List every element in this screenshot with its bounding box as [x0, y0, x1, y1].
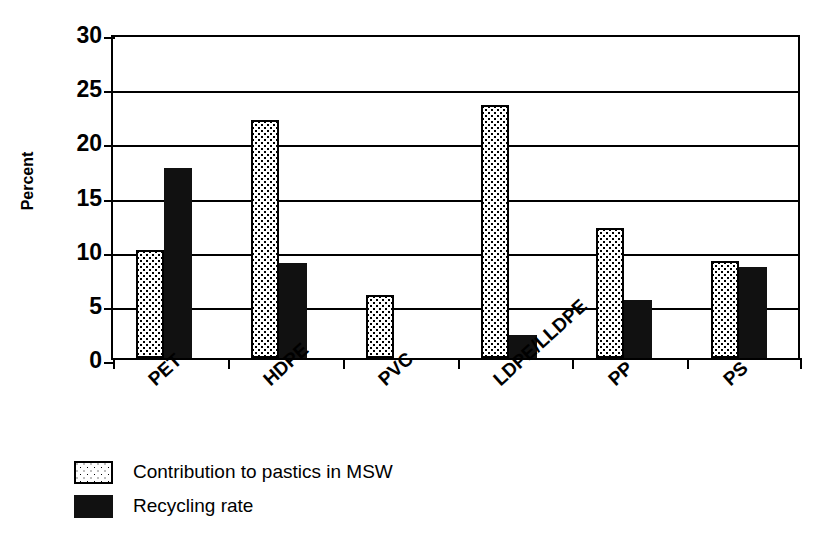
gridline	[113, 254, 798, 256]
legend-label-1: Contribution to pastics in MSW	[133, 461, 393, 483]
y-axis-tick-label: 30	[46, 24, 102, 47]
bar-pet-series-2	[164, 168, 192, 358]
gridline	[113, 308, 798, 310]
y-axis-tick-mark	[104, 37, 115, 39]
legend-label-2: Recycling rate	[133, 495, 253, 517]
y-axis-tick-mark	[104, 200, 115, 202]
gridline	[113, 91, 798, 93]
y-axis-tick-mark	[104, 308, 115, 310]
legend-swatch-2	[74, 495, 113, 518]
bar-ps-series-2	[739, 267, 767, 358]
gridline	[113, 200, 798, 202]
y-axis-tick-label: 25	[46, 78, 102, 101]
y-axis-tick-mark	[104, 254, 115, 256]
bar-pp-series-1	[596, 228, 624, 358]
x-axis-label-pp: PP	[604, 357, 638, 390]
y-axis-tick-mark	[104, 145, 115, 147]
bar-hdpe-series-1	[251, 120, 279, 358]
bar-pet-series-1	[136, 250, 164, 358]
bar-ps-series-1	[711, 261, 739, 359]
y-axis-tick-label: 10	[46, 240, 102, 263]
y-axis-tick-label: 5	[46, 294, 102, 317]
bar-pvc-series-1	[366, 295, 394, 358]
legend-swatch-1	[74, 461, 113, 484]
y-axis-tick-label: 20	[46, 132, 102, 155]
plot-area	[111, 35, 800, 360]
y-axis-tick-label: 0	[46, 349, 102, 372]
bar-chart: Percent 051015202530 PETHDPEPVCLDPE/LLDP…	[0, 0, 823, 554]
y-axis-tick-mark	[104, 91, 115, 93]
chart-legend: Contribution to pastics in MSWRecycling …	[74, 455, 393, 523]
legend-item: Recycling rate	[74, 489, 393, 523]
gridline	[113, 145, 798, 147]
y-axis-title: Percent	[19, 131, 37, 231]
y-axis-tick-label: 15	[46, 186, 102, 209]
bar-pp-series-2	[624, 300, 652, 359]
legend-item: Contribution to pastics in MSW	[74, 455, 393, 489]
x-axis-tick-mark	[800, 358, 802, 369]
x-axis-label-ps: PS	[719, 357, 753, 390]
bar-ldpe-lldpe-series-1	[481, 105, 509, 359]
